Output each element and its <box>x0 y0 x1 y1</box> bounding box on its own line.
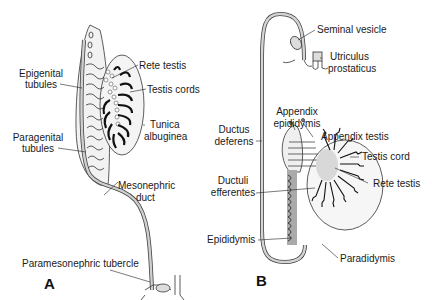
label-epigenital-tubules-line1: Epigenital <box>18 68 64 79</box>
label-epigenital-tubules-line2: tubules <box>18 79 64 90</box>
label-tunica-line2: albuginea <box>144 131 187 142</box>
label-appendix-epididymis-line2: epididymis <box>272 118 322 129</box>
label-appendix-testis: Appendix testis <box>321 131 389 142</box>
label-ductuli-efferentes-line2: efferentes <box>208 187 258 198</box>
label-paradidymis: Paradidymis <box>340 253 395 264</box>
label-utriculus-line1: Utriculus <box>330 51 369 62</box>
label-ductuli-efferentes-line1: Ductuli <box>208 175 258 186</box>
label-epididymis: Epididymis <box>207 234 255 245</box>
label-rete-testis-b: Rete testis <box>373 178 420 189</box>
label-tunica-line1: Tunica <box>150 119 180 130</box>
label-paragenital-tubules-line2: tubules <box>10 143 66 154</box>
label-seminal-vesicle: Seminal vesicle <box>317 24 386 35</box>
label-testis-cord: Testis cord <box>362 151 410 162</box>
label-utriculus-line2: prostaticus <box>328 63 376 74</box>
label-mesonephric-duct-line2: duct <box>136 192 155 203</box>
label-appendix-epididymis-line1: Appendix <box>272 106 322 117</box>
panel-letter-b: B <box>256 272 267 289</box>
label-ductus-deferens-line1: Ductus <box>212 124 256 135</box>
label-testis-cords: Testis cords <box>147 84 200 95</box>
label-paragenital-tubules-line1: Paragenital <box>10 132 66 143</box>
label-paramesonephric-tubercle: Paramesonephric tubercle <box>22 258 139 269</box>
panel-letter-a: A <box>44 275 55 292</box>
label-rete-testis-a: Rete testis <box>139 60 186 71</box>
label-ductus-deferens-line2: deferens <box>212 136 256 147</box>
label-mesonephric-duct-line1: Mesonephric <box>118 180 175 191</box>
